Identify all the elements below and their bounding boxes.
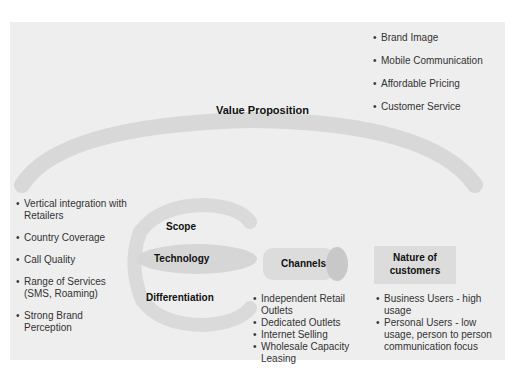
scope-ring-left [134,232,142,300]
list-item: Internet Selling [253,329,361,341]
list-item: Vertical integration with Retailers [16,198,131,222]
channels-list: Independent Retail Outlets Dedicated Out… [253,293,361,365]
list-item: Personal Users - low usage, person to pe… [376,317,508,353]
list-item: Affordable Pricing [373,78,508,90]
value-proposition-title: Value Proposition [216,104,309,116]
differentiation-label: Differentiation [146,292,214,303]
list-item: Country Coverage [16,232,131,244]
list-item: Mobile Communication [373,55,508,67]
list-item: Dedicated Outlets [253,317,361,329]
channels-title: Channels [281,258,326,269]
list-item: Strong Brand Perception [16,310,131,334]
left-factors-list: Vertical integration with Retailers Coun… [16,198,131,334]
customers-title: Nature of customers [374,251,456,277]
value-proposition-arc [22,120,475,185]
list-item: Business Users - high usage [376,293,508,317]
list-item: Call Quality [16,254,131,266]
list-item: Customer Service [373,101,508,113]
list-item: Wholesale Capacity Leasing [253,341,361,365]
channels-cylinder-cap [326,247,348,281]
scope-ring-bottom [142,300,250,325]
customers-list: Business Users - high usage Personal Use… [376,293,508,353]
list-item: Range of Services (SMS, Roaming) [16,276,131,300]
technology-label: Technology [154,253,209,264]
list-item: Brand Image [373,32,508,44]
list-item: Independent Retail Outlets [253,293,361,317]
scope-label: Scope [166,221,196,232]
value-proposition-list: Brand Image Mobile Communication Afforda… [373,32,508,113]
